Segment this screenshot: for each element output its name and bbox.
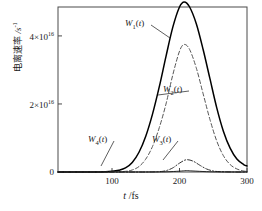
x-tick-label: 100 [105,176,119,186]
ionization-rate-chart: 电离速率 /s-1 t /fs 10020030002×10164×1016W1… [0,0,262,211]
annotation-leader-line [151,25,170,38]
x-tick-label: 200 [173,176,187,186]
curve-label-w4t: W4(t) [88,134,107,146]
curve-label-w2t: W2(t) [163,84,182,96]
curve-label-w1t: W1(t) [125,18,144,30]
y-tick-label: 4×1016 [18,30,54,41]
curve-w3t [58,160,247,172]
y-axis-label: 电离速率 /s-1 [11,0,25,97]
y-axis-unit-exponent: -1 [11,22,18,27]
y-tick-label: 2×1016 [18,98,54,109]
y-tick-label: 0 [18,167,54,177]
x-axis-label-symbol: t [123,190,126,201]
x-tick-label: 300 [240,176,254,186]
curve-label-w3t: W3(t) [152,134,171,146]
x-axis-label: t /fs [0,190,262,201]
curve-w2t [58,44,247,172]
